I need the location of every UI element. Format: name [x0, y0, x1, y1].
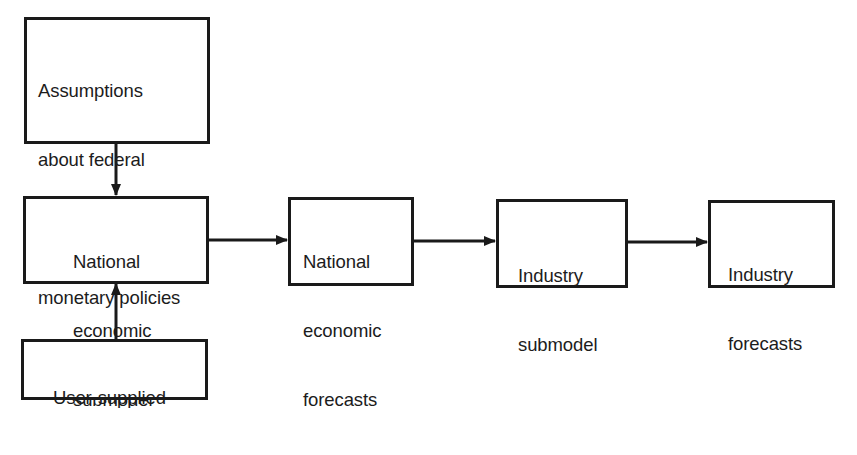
national-submodel-box: National economic submodel — [23, 196, 209, 284]
assumptions-box: Assumptions about federal fiscal and mon… — [24, 17, 210, 144]
national-forecasts-line-3: forecasts — [303, 388, 381, 411]
industry-submodel-label: Industry submodel — [518, 218, 597, 402]
industry-submodel-line-1: Industry — [518, 264, 597, 287]
industry-submodel-line-2: submodel — [518, 333, 597, 356]
industry-forecasts-box: Industry forecasts — [708, 200, 835, 288]
assumptions-line-2: about federal — [38, 148, 180, 171]
user-adjustments-label: User-supplied adjustments to model — [53, 340, 166, 455]
national-forecasts-box: National economic forecasts — [288, 197, 414, 286]
national-forecasts-line-1: National — [303, 250, 381, 273]
industry-submodel-box: Industry submodel — [496, 199, 628, 288]
industry-forecasts-line-2: forecasts — [728, 332, 802, 355]
national-forecasts-label: National economic forecasts — [303, 204, 381, 455]
national-forecasts-line-2: economic — [303, 319, 381, 342]
industry-forecasts-line-1: Industry — [728, 263, 802, 286]
user-adjustments-line-1: User-supplied — [53, 386, 166, 409]
assumptions-line-1: Assumptions — [38, 79, 180, 102]
user-adjustments-box: User-supplied adjustments to model — [21, 339, 208, 400]
industry-forecasts-label: Industry forecasts — [728, 217, 802, 401]
national-submodel-line-1: National — [73, 250, 152, 273]
